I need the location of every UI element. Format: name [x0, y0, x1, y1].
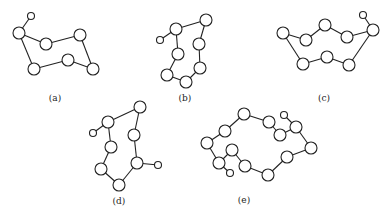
figure-label: (e) — [238, 195, 250, 205]
graph-node — [74, 29, 86, 41]
graph-node — [290, 121, 302, 133]
graph-node — [95, 163, 107, 175]
graph-node — [200, 14, 212, 26]
graph-node — [113, 179, 125, 191]
graph-node — [128, 129, 140, 141]
graph-node — [274, 129, 286, 141]
figure-label: (c) — [318, 93, 330, 103]
labels-layer: (a)(b)(c)(d)(e) — [49, 93, 330, 206]
graph-node — [172, 48, 184, 60]
graph-node — [131, 157, 143, 169]
graph-node — [297, 58, 309, 70]
graph-node — [28, 63, 40, 75]
figure-label: (b) — [179, 93, 192, 103]
graph-node — [367, 24, 379, 36]
graph-node — [40, 38, 52, 50]
graph-node — [62, 54, 74, 66]
graph-node — [277, 27, 289, 39]
graph-node — [239, 160, 251, 172]
graph-diagram: (a)(b)(c)(d)(e) — [0, 0, 389, 218]
graph-node — [281, 112, 288, 119]
graph-node — [180, 76, 192, 88]
graph-node — [321, 51, 333, 63]
graph-node — [105, 141, 117, 153]
graph-node — [28, 13, 35, 20]
figure-label: (d) — [113, 196, 126, 206]
graph-node — [134, 101, 146, 113]
graph-node — [226, 144, 238, 156]
graph-node — [319, 19, 331, 31]
graph-node — [263, 116, 275, 128]
graph-node — [281, 151, 293, 163]
graph-node — [155, 162, 162, 169]
graph-node — [219, 125, 231, 137]
figure-label: (a) — [49, 93, 61, 103]
graph-node — [194, 62, 206, 74]
graph-node — [300, 34, 312, 46]
graph-node — [341, 31, 353, 43]
graph-node — [102, 116, 114, 128]
graph-node — [201, 137, 213, 149]
graph-node — [262, 169, 274, 181]
graph-node — [360, 12, 367, 19]
graph-node — [161, 69, 173, 81]
graph-node — [213, 157, 225, 169]
graph-node — [90, 130, 97, 137]
graph-node — [87, 63, 99, 75]
graph-node — [238, 108, 250, 120]
graph-node — [227, 170, 234, 177]
graph-node — [170, 23, 182, 35]
graph-node — [157, 37, 164, 44]
graph-node — [13, 27, 25, 39]
graph-node — [343, 59, 355, 71]
graph-node — [193, 38, 205, 50]
graph-node — [305, 142, 317, 154]
